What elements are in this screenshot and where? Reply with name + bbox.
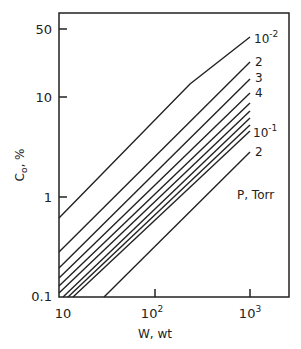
curve-6e-2 [59,111,250,293]
y-tick-10: 10 [35,90,52,105]
label-2: 2 [255,55,263,69]
legend-title: P, Torr [237,188,274,202]
label-4: 4 [255,86,263,100]
y-tick-0.1: 0.1 [31,289,52,304]
y-tick-1: 1 [44,190,52,205]
chart: 50 10 1 0.1 Co, % 10 102 103 W, wt 10-2 … [0,0,301,349]
x-tick-100: 102 [141,304,163,321]
curve-5e-2 [59,103,250,286]
curve-8e-2 [68,125,250,297]
x-tick-10: 10 [55,306,72,321]
curve-7e-2 [63,118,250,297]
label-1e-1: 10-1 [253,123,277,140]
svg-text:Co, %: Co, % [13,149,29,182]
curve-1e-2 [59,37,250,218]
curve-labels: 10-2 2 3 4 10-1 2 P, Torr [237,29,278,202]
curve-3e-2 [59,79,250,268]
x-tick-1000: 103 [239,304,261,321]
label-2-b: 2 [255,145,263,159]
curve-1e-1 [73,131,250,297]
label-3: 3 [255,71,263,85]
label-1e-2: 10-2 [254,29,278,46]
curves [59,37,250,297]
y-axis-label: Co, % [13,149,29,182]
x-axis-label: W, wt [138,327,172,341]
y-tick-50: 50 [35,22,52,37]
